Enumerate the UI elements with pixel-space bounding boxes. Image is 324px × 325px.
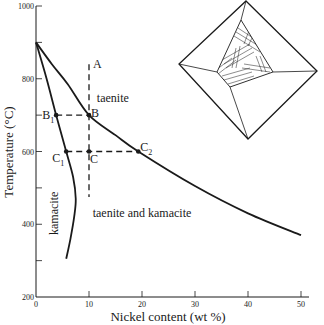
x-tick-label: 50: [297, 300, 305, 309]
y-tick-label: 800: [22, 75, 34, 84]
point-b-label: B: [91, 106, 99, 120]
octahedron-edge: [273, 71, 317, 72]
y-tick-label: 200: [22, 293, 34, 302]
series-group: [36, 42, 301, 258]
x-tick-label: 30: [191, 300, 199, 309]
octahedron-edge: [230, 87, 248, 139]
region-label-taenite: taenite: [97, 91, 129, 105]
y-tick-label: 1000: [18, 2, 34, 11]
point-a-label: A: [93, 57, 102, 71]
octahedron-inner-face: [217, 20, 273, 87]
octahedron-outline: [179, 1, 317, 139]
axes: 010203040502004006008001000: [18, 2, 309, 309]
region-label-kamacite: kamacite: [47, 192, 61, 235]
x-tick-label: 10: [85, 300, 93, 309]
point-c1-label: C1: [52, 151, 64, 168]
y-tick-label: 600: [22, 148, 34, 157]
point-b1-label: B1: [42, 108, 54, 125]
x-tick-label: 40: [244, 300, 252, 309]
y-axis-title: Temperature (°C): [1, 106, 16, 197]
octahedron-widmanstatten-inset: [179, 1, 317, 139]
point-c-label: C: [90, 152, 98, 166]
y-tick-label: 400: [22, 220, 34, 229]
point-b1-marker: [54, 113, 59, 118]
phase-diagram: 010203040502004006008001000 ABB1CC1C2tae…: [0, 0, 324, 325]
x-axis-title: Nickel content (wt %): [110, 309, 225, 324]
region-label-taenite-and-kamacite: taenite and kamacite: [93, 206, 192, 220]
x-tick-label: 20: [138, 300, 146, 309]
point-c1-marker: [64, 149, 69, 154]
x-tick-label: 0: [34, 300, 38, 309]
